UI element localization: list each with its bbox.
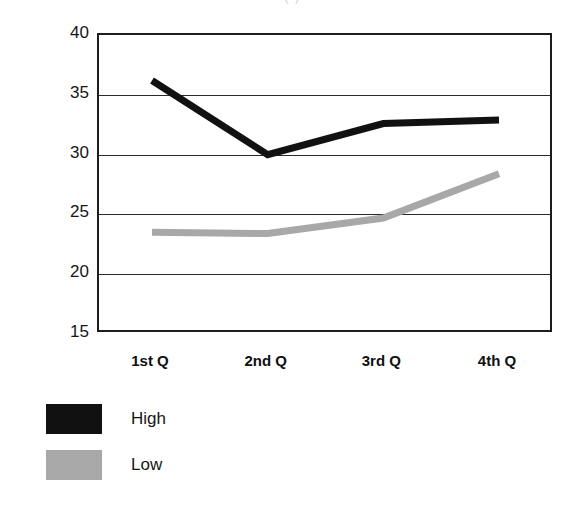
series-line-high xyxy=(152,80,499,154)
y-tick-label-35: 35 xyxy=(43,84,89,101)
x-tick-label-1: 1st Q xyxy=(95,352,205,370)
legend-entry-low[interactable]: Low xyxy=(46,448,286,494)
legend-label-low: Low xyxy=(131,455,162,475)
x-axis-tick-labels: 1st Q2nd Q3rd Q4th Q xyxy=(0,352,584,374)
y-tick-label-20: 20 xyxy=(43,263,89,280)
series-layer xyxy=(99,35,554,334)
page-bottom-artifact xyxy=(0,514,584,524)
y-tick-label-30: 30 xyxy=(43,144,89,161)
legend-entry-high[interactable]: High xyxy=(46,402,286,448)
line-chart-figure: 403530252015 1st Q2nd Q3rd Q4th Q HighLo… xyxy=(0,0,584,526)
legend-swatch-high xyxy=(46,404,102,434)
plot-area xyxy=(97,33,552,332)
legend-swatch-low xyxy=(46,450,102,480)
y-tick-label-40: 40 xyxy=(43,24,89,41)
y-tick-label-25: 25 xyxy=(43,203,89,220)
y-tick-label-15: 15 xyxy=(43,323,89,340)
series-line-low xyxy=(152,174,499,234)
x-tick-label-4: 4th Q xyxy=(442,352,552,370)
chart-legend: HighLow xyxy=(46,402,286,494)
legend-label-high: High xyxy=(131,409,166,429)
x-tick-label-3: 3rd Q xyxy=(326,352,436,370)
x-tick-label-2: 2nd Q xyxy=(211,352,321,370)
